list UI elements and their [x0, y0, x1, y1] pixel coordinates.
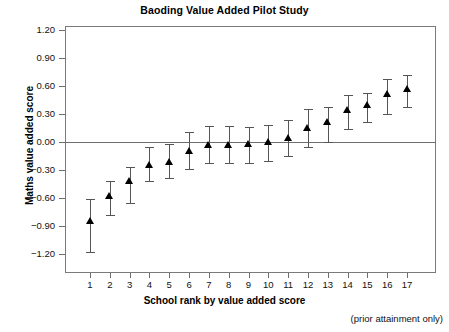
- zero-reference-line: [65, 142, 436, 143]
- x-axis-tick: [249, 273, 250, 278]
- x-axis-tick-label: 11: [278, 279, 298, 290]
- x-axis-tick: [328, 273, 329, 278]
- x-axis-tick-label: 6: [179, 279, 199, 290]
- x-axis-tick-label: 2: [100, 279, 120, 290]
- x-axis-tick-label: 5: [159, 279, 179, 290]
- y-axis-tick: [59, 30, 65, 31]
- y-axis-tick: [59, 142, 65, 143]
- x-axis-tick: [288, 273, 289, 278]
- x-axis-tick-label: 4: [139, 279, 159, 290]
- x-axis-tick: [110, 273, 111, 278]
- y-axis-tick: [59, 114, 65, 115]
- y-axis-tick: [59, 58, 65, 59]
- x-axis-tick-label: 7: [199, 279, 219, 290]
- x-axis-tick: [308, 273, 309, 278]
- x-axis-tick: [229, 273, 230, 278]
- x-axis-tick: [90, 273, 91, 278]
- plot-area: [65, 26, 436, 273]
- x-axis-tick: [169, 273, 170, 278]
- x-axis-tick-label: 10: [258, 279, 278, 290]
- chart-footnote: (prior attainment only): [351, 313, 443, 324]
- x-axis-tick: [149, 273, 150, 278]
- y-axis-title: Maths value added score: [24, 41, 35, 251]
- x-axis-tick: [189, 273, 190, 278]
- y-axis-tick-label: 1.20: [3, 24, 55, 35]
- x-axis-tick: [268, 273, 269, 278]
- y-axis-tick: [59, 170, 65, 171]
- x-axis-tick: [387, 273, 388, 278]
- x-axis-tick-label: 12: [298, 279, 318, 290]
- x-axis-tick-label: 8: [219, 279, 239, 290]
- x-axis-tick-label: 17: [397, 279, 417, 290]
- x-axis-tick-label: 16: [377, 279, 397, 290]
- x-axis-tick-label: 15: [357, 279, 377, 290]
- x-axis-title: School rank by value added score: [0, 295, 449, 306]
- x-axis-tick-label: 14: [338, 279, 358, 290]
- x-axis-tick: [209, 273, 210, 278]
- y-axis-tick: [59, 226, 65, 227]
- x-axis-tick-label: 1: [80, 279, 100, 290]
- x-axis-tick-label: 3: [120, 279, 140, 290]
- x-axis-tick: [367, 273, 368, 278]
- y-axis-tick: [59, 254, 65, 255]
- y-axis-tick: [59, 86, 65, 87]
- x-axis-tick: [130, 273, 131, 278]
- x-axis-tick: [348, 273, 349, 278]
- y-axis-tick: [59, 198, 65, 199]
- chart-figure: Baoding Value Added Pilot Study 1.200.90…: [0, 0, 449, 332]
- x-axis-tick-label: 9: [239, 279, 259, 290]
- chart-title: Baoding Value Added Pilot Study: [0, 4, 449, 16]
- x-axis-tick-label: 13: [318, 279, 338, 290]
- x-axis-tick: [407, 273, 408, 278]
